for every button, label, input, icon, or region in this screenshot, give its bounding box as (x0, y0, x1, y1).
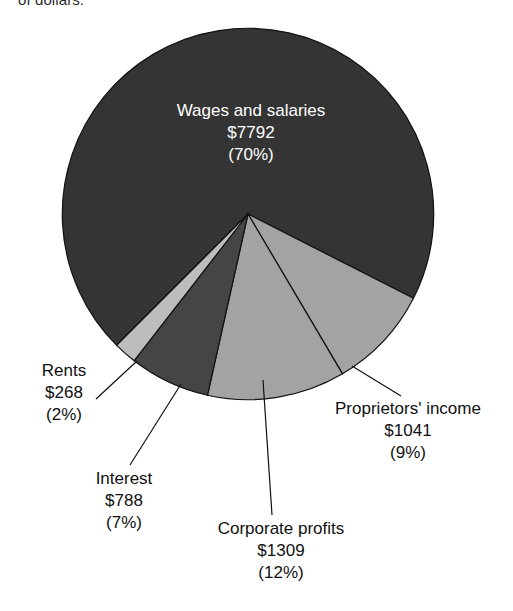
pie-label-percent: (2%) (12, 404, 116, 426)
pie-chart-figure: of dollars. Wages and salaries $7792 (70… (0, 0, 513, 611)
pie-label-value: $1041 (310, 420, 506, 442)
pie-label-name: Rents (12, 360, 116, 382)
leader-line-corporate-profits (263, 380, 272, 515)
pie-label-rents: Rents $268 (2%) (12, 360, 116, 426)
pie-label-name: Interest (64, 468, 184, 490)
pie-label-proprietors-income: Proprietors' income $1041 (9%) (310, 398, 506, 464)
pie-label-percent: (7%) (64, 512, 184, 534)
pie-label-value: $1309 (186, 540, 376, 562)
leader-line-interest (130, 384, 181, 465)
pie-label-name: Wages and salaries (148, 100, 354, 122)
pie-label-value: $268 (12, 382, 116, 404)
pie-label-corporate-profits: Corporate profits $1309 (12%) (186, 518, 376, 584)
pie-label-name: Proprietors' income (310, 398, 506, 420)
pie-label-percent: (9%) (310, 442, 506, 464)
pie-label-interest: Interest $788 (7%) (64, 468, 184, 534)
pie-label-percent: (70%) (148, 144, 354, 166)
pie-label-wages-and-salaries: Wages and salaries $7792 (70%) (148, 100, 354, 166)
pie-label-name: Corporate profits (186, 518, 376, 540)
pie-label-percent: (12%) (186, 562, 376, 584)
pie-label-value: $788 (64, 490, 184, 512)
leader-line-proprietors-income (352, 366, 401, 396)
pie-label-value: $7792 (148, 122, 354, 144)
